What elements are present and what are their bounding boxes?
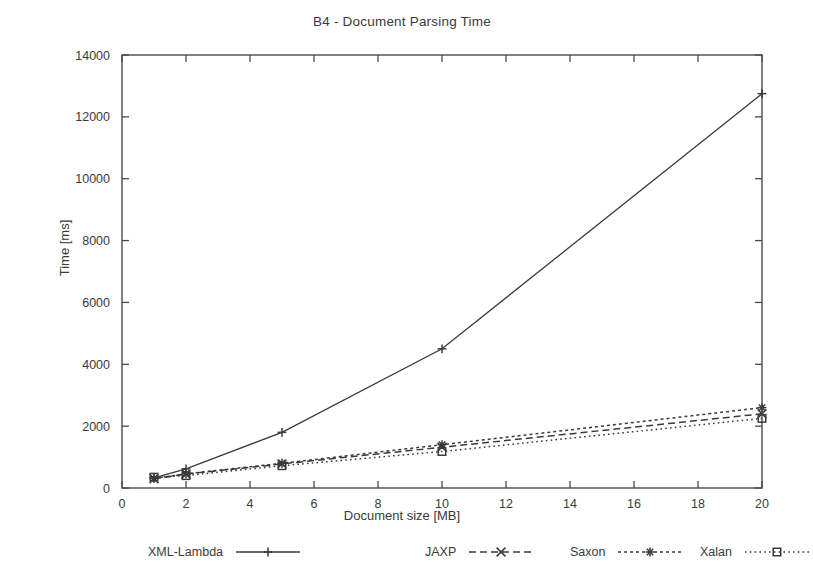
chart-legend: XML-LambdaJAXPSaxonXalan (0, 541, 804, 567)
series-jaxp (150, 409, 767, 483)
legend-entry-saxon[interactable]: Saxon (570, 541, 686, 563)
legend-label: Xalan (700, 541, 732, 563)
x-axis-label: Document size [MB] (0, 508, 804, 523)
legend-label: Saxon (570, 541, 605, 563)
y-tick-label: 10000 (75, 172, 110, 186)
y-tick-label: 2000 (82, 420, 110, 434)
legend-label: JAXP (425, 541, 456, 563)
data-series-group (150, 89, 767, 483)
series-saxon (150, 403, 767, 483)
y-tick-label: 12000 (75, 110, 110, 124)
legend-entry-jaxp[interactable]: JAXP (425, 541, 537, 563)
y-tick-label: 8000 (82, 234, 110, 248)
legend-line-sample (741, 541, 813, 563)
legend-entry-xml-lambda[interactable]: XML-Lambda (148, 541, 304, 563)
y-tick-label: 0 (103, 482, 110, 496)
legend-entry-xalan[interactable]: Xalan (700, 541, 813, 563)
y-tick-label: 4000 (82, 358, 110, 372)
y-tick-label: 6000 (82, 296, 110, 310)
y-axis-ticks: 02000400060008000100001200014000 (75, 49, 762, 496)
y-tick-label: 14000 (75, 49, 110, 63)
legend-line-sample (232, 541, 304, 563)
legend-line-sample (465, 541, 537, 563)
plot-frame (122, 55, 762, 488)
legend-label: XML-Lambda (148, 541, 223, 563)
legend-line-sample (614, 541, 686, 563)
